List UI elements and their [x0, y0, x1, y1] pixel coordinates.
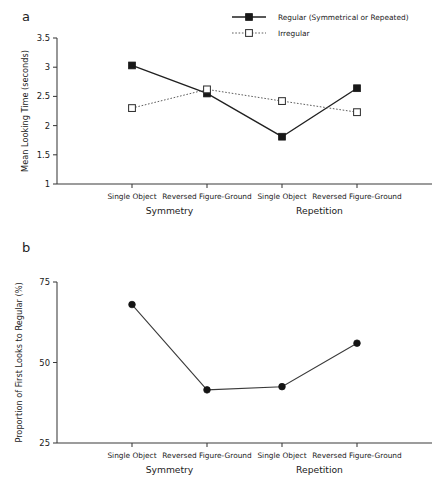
- x-tick-label: Reversed Figure-Ground: [312, 192, 402, 201]
- x-tick-label: Single Object: [257, 451, 306, 460]
- data-point-marker: [354, 109, 361, 116]
- y-axis-title: Proportion of First Looks to Regular (%): [14, 282, 24, 442]
- panel-a-plot: 11.522.533.5Single ObjectReversed Figure…: [0, 0, 442, 235]
- panel-a: a 11.522.533.5Single ObjectReversed Figu…: [0, 0, 442, 235]
- y-tick-label: 50: [39, 358, 50, 368]
- x-group-label: Symmetry: [146, 464, 194, 475]
- legend-marker: [246, 30, 253, 37]
- data-point-marker: [204, 86, 211, 93]
- y-tick-label: 75: [39, 277, 50, 287]
- x-tick-label: Single Object: [107, 451, 156, 460]
- y-tick-label: 25: [39, 438, 50, 448]
- x-group-label: Repetition: [296, 205, 343, 216]
- x-tick-label: Reversed Figure-Ground: [162, 192, 252, 201]
- data-point-marker: [204, 387, 211, 394]
- x-group-label: Symmetry: [146, 205, 194, 216]
- y-tick-label: 2: [45, 121, 50, 131]
- legend-label: Regular (Symmetrical or Repeated): [278, 13, 409, 22]
- data-point-marker: [129, 301, 136, 308]
- series-line: [132, 89, 357, 112]
- legend-marker: [246, 14, 253, 21]
- y-tick-label: 1: [45, 179, 50, 189]
- x-tick-label: Single Object: [257, 192, 306, 201]
- data-point-marker: [354, 85, 361, 92]
- x-tick-label: Reversed Figure-Ground: [312, 451, 402, 460]
- data-point-marker: [354, 340, 361, 347]
- data-point-marker: [279, 98, 286, 105]
- x-tick-label: Single Object: [107, 192, 156, 201]
- data-point-marker: [129, 62, 136, 69]
- series-line: [132, 305, 357, 390]
- data-point-marker: [129, 105, 136, 112]
- data-point-marker: [279, 383, 286, 390]
- data-point-marker: [279, 133, 286, 140]
- y-tick-label: 1.5: [37, 150, 50, 160]
- series-line: [132, 65, 357, 136]
- panel-b-plot: 255075Single ObjectReversed Figure-Groun…: [0, 235, 442, 487]
- y-tick-label: 3.5: [37, 33, 50, 43]
- x-group-label: Repetition: [296, 464, 343, 475]
- x-tick-label: Reversed Figure-Ground: [162, 451, 252, 460]
- panel-b: b 255075Single ObjectReversed Figure-Gro…: [0, 235, 442, 487]
- y-tick-label: 3: [45, 62, 50, 72]
- legend-label: Irregular: [278, 29, 310, 38]
- y-tick-label: 2.5: [37, 91, 50, 101]
- y-axis-title: Mean Looking Time (seconds): [20, 50, 30, 172]
